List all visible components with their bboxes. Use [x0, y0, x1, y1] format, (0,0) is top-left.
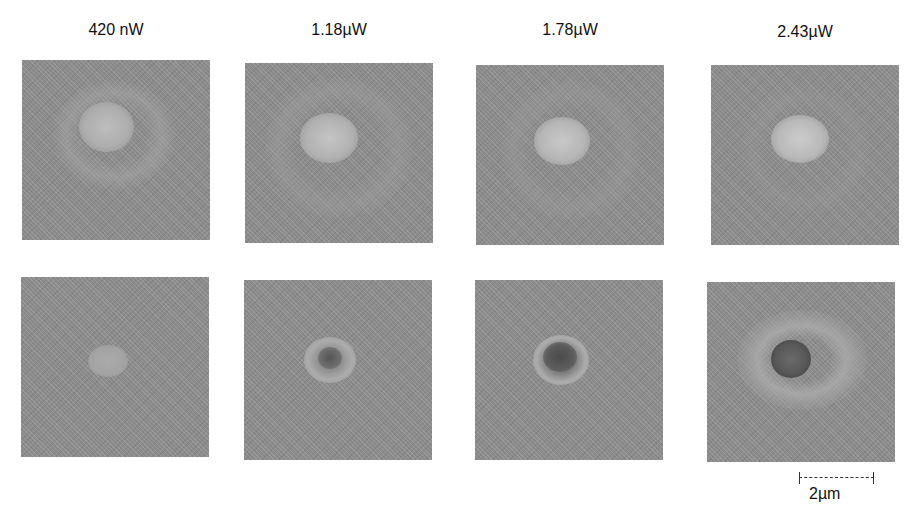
image-panel-row1-420nw [22, 60, 210, 240]
column-label-2-43uw: 2.43µW [711, 23, 899, 41]
central-bright-spot [534, 117, 590, 165]
dark-center [318, 347, 342, 369]
scale-bar-left-tick [799, 472, 800, 484]
central-bright-spot [300, 113, 358, 163]
image-panel-row2-1-18uw [244, 280, 432, 460]
image-panel-row1-2-43uw [711, 65, 899, 245]
central-light-spot [88, 345, 128, 377]
scale-bar [799, 472, 874, 484]
scale-bar-line [799, 477, 874, 478]
column-label-420nw: 420 nW [22, 21, 210, 39]
column-label-1-78uw: 1.78µW [476, 21, 664, 39]
image-panel-row2-2-43uw [707, 282, 895, 462]
column-label-1-18uw: 1.18µW [245, 21, 433, 39]
image-panel-row1-1-18uw [245, 63, 433, 243]
image-panel-row2-1-78uw [475, 280, 663, 460]
central-bright-spot [79, 102, 134, 152]
dark-center [771, 340, 811, 378]
central-bright-spot [771, 115, 829, 163]
scale-bar-right-tick [873, 472, 874, 484]
image-panel-row2-420nw [21, 277, 209, 457]
image-panel-row1-1-78uw [476, 65, 664, 245]
scale-bar-label: 2µm [809, 485, 840, 503]
dark-center [543, 342, 577, 372]
